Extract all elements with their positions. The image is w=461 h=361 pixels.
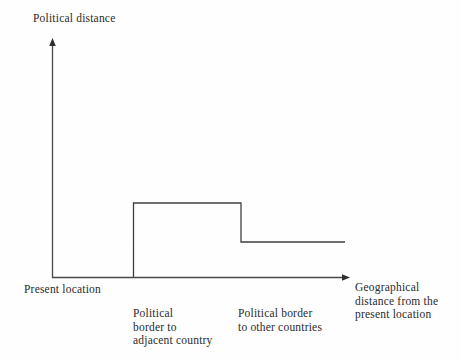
- y-axis-label: Political distance: [33, 12, 115, 26]
- x-axis-label: Geographical distance from the present l…: [355, 281, 438, 322]
- chart-figure: Political distance Present location Geog…: [0, 0, 461, 361]
- annotation-adjacent-country-border: Political border to adjacent country: [133, 307, 213, 348]
- y-axis-arrowhead-icon: [49, 38, 56, 46]
- annotation-other-countries-border: Political border to other countries: [238, 307, 322, 334]
- x-axis-arrowhead-icon: [342, 274, 350, 281]
- origin-label: Present location: [24, 283, 101, 297]
- political-distance-step-curve: [134, 203, 346, 277]
